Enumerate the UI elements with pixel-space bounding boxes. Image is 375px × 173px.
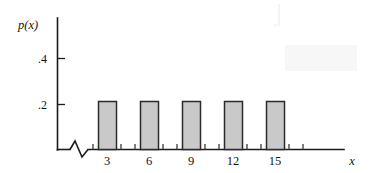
bar-x-6 <box>141 102 159 150</box>
bar-x-9 <box>183 102 201 150</box>
axis-break-zigzag <box>70 141 88 157</box>
bar-x-12 <box>225 102 243 150</box>
y-tick-label-0.4: .4 <box>38 52 47 66</box>
bars-group <box>99 102 285 150</box>
chart-canvas: p(x) .4 .2 3 6 9 12 15 x <box>0 0 375 173</box>
y-tick-label-0.2: .2 <box>38 98 47 112</box>
x-axis-label: x <box>348 154 355 168</box>
bar-x-15 <box>267 102 285 150</box>
probability-histogram-figure: p(x) .4 .2 3 6 9 12 15 x <box>0 0 375 173</box>
x-tick-label-12: 12 <box>227 154 240 168</box>
y-axis-group <box>58 18 66 150</box>
x-tick-label-9: 9 <box>188 154 194 168</box>
y-axis-label: p(x) <box>17 18 38 32</box>
x-tick-label-3: 3 <box>104 154 110 168</box>
x-tick-label-6: 6 <box>146 154 152 168</box>
bar-x-3 <box>99 102 117 150</box>
x-tick-label-15: 15 <box>269 154 282 168</box>
